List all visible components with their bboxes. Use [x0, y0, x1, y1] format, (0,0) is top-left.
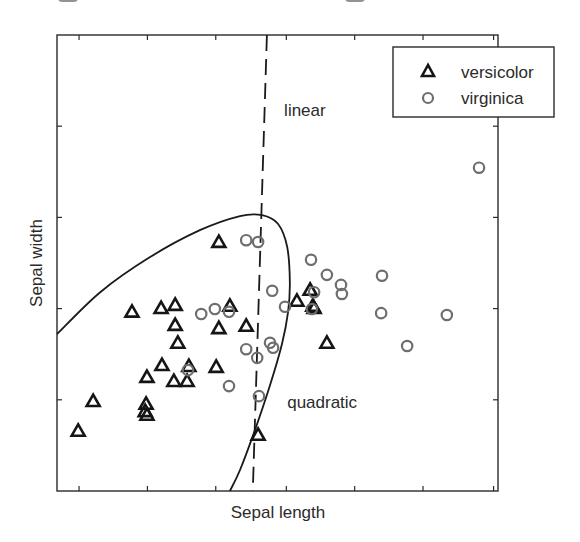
data-points	[72, 162, 485, 439]
versicolor-point	[212, 322, 225, 333]
versicolor-point	[171, 336, 184, 347]
scatter-chart: linear quadratic Sepal length Sepal widt…	[0, 0, 580, 542]
virginica-point	[306, 255, 316, 265]
decision-boundaries	[57, 35, 290, 491]
versicolor-point	[167, 375, 180, 386]
versicolor-point	[210, 360, 223, 371]
linear-boundary	[253, 35, 267, 491]
versicolor-point	[72, 424, 85, 435]
versicolor-point	[155, 359, 168, 370]
virginica-point	[210, 304, 220, 314]
virginica-point	[322, 270, 332, 280]
legend-label: virginica	[461, 89, 524, 108]
linear-annotation: linear	[284, 101, 326, 120]
virginica-point	[376, 308, 386, 318]
versicolor-point	[169, 319, 182, 330]
virginica-point	[196, 309, 206, 319]
versicolor-point	[240, 319, 253, 330]
virginica-point	[241, 235, 251, 245]
versicolor-point	[169, 298, 182, 309]
versicolor-point	[140, 371, 153, 382]
virginica-point	[241, 344, 251, 354]
versicolor-point	[155, 302, 168, 313]
versicolor-point	[252, 428, 265, 439]
virginica-point	[267, 286, 277, 296]
versicolor-point	[87, 395, 100, 406]
legend: versicolor virginica	[393, 47, 554, 117]
x-axis-label: Sepal length	[231, 503, 326, 522]
versicolor-point	[125, 305, 138, 316]
virginica-point	[402, 341, 412, 351]
virginica-point	[442, 310, 452, 320]
quadratic-annotation: quadratic	[287, 393, 357, 412]
virginica-point	[224, 381, 234, 391]
y-axis-label: Sepal width	[27, 219, 46, 307]
virginica-point	[377, 271, 387, 281]
legend-label: versicolor	[461, 63, 534, 82]
versicolor-point	[212, 236, 225, 247]
virginica-point	[474, 162, 484, 172]
versicolor-point	[320, 336, 333, 347]
virginica-point	[253, 237, 263, 247]
